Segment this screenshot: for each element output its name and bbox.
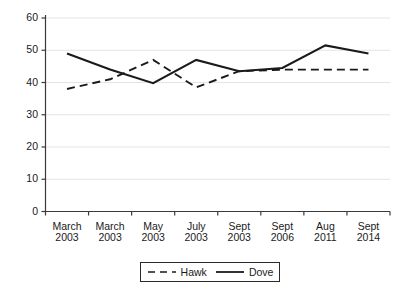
plot-area xyxy=(0,0,400,292)
y-axis-tick-label: 10 xyxy=(14,173,38,184)
y-axis-tick-label: 0 xyxy=(14,206,38,217)
x-axis-tick-label: May 2003 xyxy=(132,221,175,244)
legend-label-hawk: Hawk xyxy=(181,267,207,278)
hawk-dashed-line-icon xyxy=(147,267,177,277)
legend-label-dove: Dove xyxy=(249,267,274,278)
y-axis-tick-label: 50 xyxy=(14,44,38,55)
y-axis-tick-label: 20 xyxy=(14,141,38,152)
x-axis-tick-label: Sept 2003 xyxy=(218,221,261,244)
y-axis-tick-label: 40 xyxy=(14,77,38,88)
line-chart: 0102030405060 March 2003March 2003May 20… xyxy=(0,0,400,292)
legend-item-hawk: Hawk xyxy=(147,267,207,278)
x-axis-tick-label: Sept 2006 xyxy=(261,221,304,244)
x-axis-tick-label: Sept 2014 xyxy=(347,221,390,244)
x-axis-ticks xyxy=(46,212,391,216)
legend-item-dove: Dove xyxy=(215,267,274,278)
x-axis-tick-label: March 2003 xyxy=(89,221,132,244)
y-axis-tick-label: 30 xyxy=(14,109,38,120)
y-axis-tick-label: 60 xyxy=(14,12,38,23)
series-line-hawk xyxy=(67,60,368,89)
x-axis-tick-label: July 2003 xyxy=(175,221,218,244)
x-axis-tick-label: March 2003 xyxy=(46,221,89,244)
x-axis-tick-label: Aug 2011 xyxy=(304,221,347,244)
chart-legend: Hawk Dove xyxy=(140,262,280,282)
dove-solid-line-icon xyxy=(215,267,245,277)
